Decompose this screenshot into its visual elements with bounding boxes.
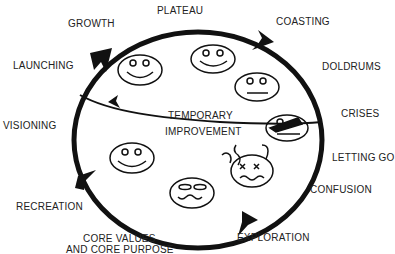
label-core-values-line2: AND CORE PURPOSE — [66, 244, 174, 254]
face-growth-icon — [118, 55, 162, 85]
label-visioning: VISIONING — [3, 120, 56, 131]
label-core-values-line1: CORE VALUES — [83, 233, 156, 244]
label-temporary: TEMPORARY — [168, 110, 233, 121]
label-crises: CRISES — [341, 108, 379, 119]
label-growth: GROWTH — [68, 18, 115, 29]
label-plateau: PLATEAU — [157, 5, 203, 16]
label-letting-go: LETTING GO — [332, 152, 395, 163]
face-doldrums-icon — [235, 73, 279, 101]
label-doldrums: DOLDRUMS — [322, 61, 381, 72]
face-letting-go-icon — [222, 145, 273, 187]
label-improvement: IMPROVEMENT — [165, 126, 242, 137]
cycle-ellipse — [74, 32, 322, 248]
label-exploration: EXPLORATION — [237, 232, 310, 243]
label-launching: LAUNCHING — [13, 60, 74, 71]
face-recreation-icon — [110, 143, 154, 173]
label-confusion: CONFUSION — [310, 184, 372, 195]
face-exploration-icon — [170, 178, 214, 208]
face-crises-icon — [266, 115, 308, 141]
label-coasting: COASTING — [276, 16, 330, 27]
label-recreation: RECREATION — [16, 201, 83, 212]
face-plateau-icon — [191, 45, 235, 73]
